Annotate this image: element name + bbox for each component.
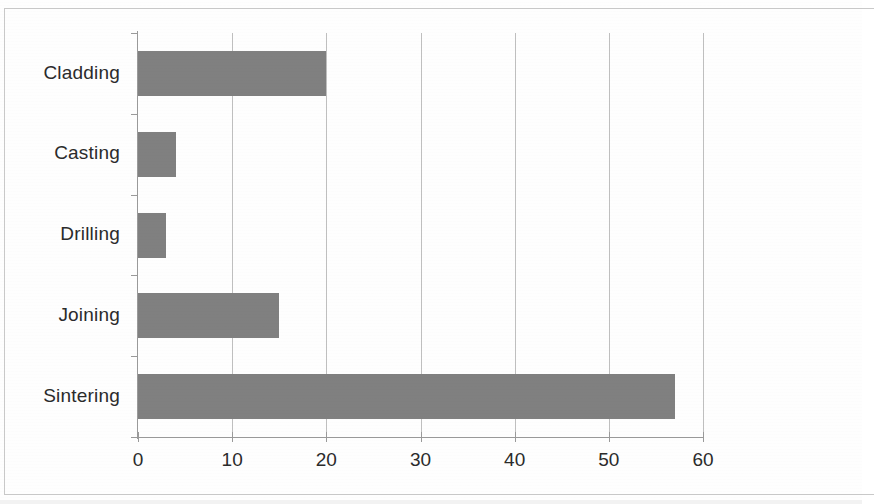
category-tick xyxy=(131,114,138,115)
bar-joining xyxy=(138,293,279,338)
value-tick-label-60: 60 xyxy=(673,449,733,471)
category-label-joining: Joining xyxy=(0,304,120,326)
value-tick-40 xyxy=(515,432,516,442)
category-axis-line xyxy=(137,31,138,439)
bar-row xyxy=(138,275,703,356)
value-tick-label-30: 30 xyxy=(391,449,451,471)
plot-area xyxy=(138,33,703,437)
value-tick-20 xyxy=(326,432,327,442)
category-label-casting: Casting xyxy=(0,142,120,164)
bar-casting xyxy=(138,132,176,177)
category-tick xyxy=(131,275,138,276)
bar-row xyxy=(138,195,703,276)
bar-row xyxy=(138,356,703,437)
value-tick-10 xyxy=(232,432,233,442)
bar-row xyxy=(138,33,703,114)
value-tick-label-40: 40 xyxy=(485,449,545,471)
bar-drilling xyxy=(138,213,166,258)
bar-sintering xyxy=(138,374,675,419)
value-tick-label-0: 0 xyxy=(108,449,168,471)
value-tick-60 xyxy=(703,432,704,442)
category-tick xyxy=(131,437,138,438)
value-tick-label-20: 20 xyxy=(296,449,356,471)
value-tick-label-10: 10 xyxy=(202,449,262,471)
category-tick xyxy=(131,195,138,196)
value-tick-label-50: 50 xyxy=(579,449,639,471)
category-label-drilling: Drilling xyxy=(0,223,120,245)
category-label-sintering: Sintering xyxy=(0,385,120,407)
gridline-60 xyxy=(703,33,704,437)
category-tick xyxy=(131,33,138,34)
category-tick xyxy=(131,356,138,357)
bar-row xyxy=(138,114,703,195)
value-tick-30 xyxy=(421,432,422,442)
category-label-cladding: Cladding xyxy=(0,62,120,84)
value-axis-line xyxy=(131,437,704,438)
scan-bottom-edge xyxy=(0,500,862,504)
value-tick-50 xyxy=(609,432,610,442)
bar-cladding xyxy=(138,51,326,96)
value-tick-0 xyxy=(138,432,139,442)
